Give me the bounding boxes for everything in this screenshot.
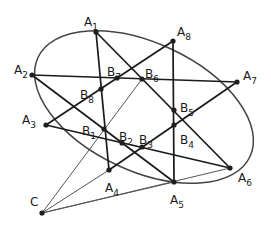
point-b4 xyxy=(171,122,176,127)
point-c xyxy=(39,210,44,215)
label-a2: A2 xyxy=(14,63,28,80)
point-a7 xyxy=(234,79,239,84)
label-a6: A6 xyxy=(238,171,252,188)
label-a4: A4 xyxy=(105,181,119,198)
point-a4 xyxy=(106,167,111,172)
point-b6 xyxy=(139,76,144,81)
label-a5: A5 xyxy=(170,193,184,210)
label-b4: B4 xyxy=(180,133,194,150)
point-a8 xyxy=(170,38,175,43)
label-b1: B1 xyxy=(82,124,96,141)
label-a7: A7 xyxy=(243,69,257,86)
point-b1 xyxy=(101,126,106,131)
label-a8: A8 xyxy=(177,25,191,42)
conic-ellipse xyxy=(11,0,271,214)
label-a1: A1 xyxy=(84,15,98,32)
chord-a1-a4 xyxy=(96,32,109,170)
chord-a2-a7 xyxy=(32,75,237,82)
point-a2 xyxy=(29,72,34,77)
label-c: C xyxy=(30,195,38,209)
point-b8 xyxy=(98,86,103,91)
point-a3 xyxy=(43,122,48,127)
label-b6: B6 xyxy=(145,67,159,84)
point-a5 xyxy=(171,179,176,184)
chords xyxy=(32,32,237,182)
labels: A1A2A3A4A5A6A7A8B1B2B3B4B5B6B7B8C xyxy=(14,15,257,210)
point-b5 xyxy=(171,107,176,112)
line-c-a4 xyxy=(42,170,109,213)
point-a6 xyxy=(227,165,232,170)
chord-a3-a6 xyxy=(46,125,230,168)
label-b8: B8 xyxy=(80,88,94,105)
label-a3: A3 xyxy=(22,113,36,130)
geometry-diagram: A1A2A3A4A5A6A7A8B1B2B3B4B5B6B7B8C xyxy=(0,0,271,227)
ellipse xyxy=(11,0,271,214)
